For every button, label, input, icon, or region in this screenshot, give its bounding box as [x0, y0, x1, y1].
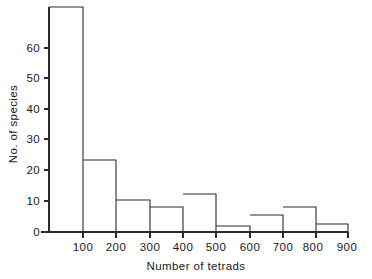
y-tick-label: 50 [26, 72, 40, 84]
y-tick-label: 20 [26, 164, 40, 176]
y-tick-label: 60 [26, 42, 40, 54]
bar-8 [316, 224, 348, 232]
x-tick-label: 500 [206, 241, 226, 253]
y-axis-ticks [44, 48, 49, 201]
bar-3 [150, 207, 183, 232]
bar-1 [83, 160, 116, 232]
x-tick-label: 200 [106, 241, 126, 253]
y-tick-label: 0 [33, 226, 40, 238]
x-tick-label: 400 [173, 241, 193, 253]
x-tick-label: 300 [140, 241, 160, 253]
x-tick-label: 700 [273, 241, 293, 253]
y-tick-label: 10 [26, 195, 40, 207]
bar-4 [183, 194, 216, 232]
y-tick-label: 30 [26, 133, 40, 145]
x-axis-ticks [83, 232, 348, 238]
bars-group [49, 7, 348, 232]
bar-2 [116, 200, 150, 232]
y-axis-tick-labels: 60 50 40 30 20 10 0 [26, 42, 40, 238]
x-tick-label: 600 [240, 241, 260, 253]
y-axis-title: No. of species [7, 85, 19, 163]
y-tick-label: 40 [26, 103, 40, 115]
x-tick-label: 800 [303, 241, 323, 253]
x-tick-label: 100 [73, 241, 93, 253]
x-axis-title: Number of tetrads [147, 260, 246, 272]
x-tick-label: 900 [337, 241, 357, 253]
bar-5 [216, 226, 250, 232]
bar-7 [283, 207, 316, 232]
x-axis-tick-labels: 100 200 300 400 500 600 700 800 900 [73, 241, 357, 253]
figure-container: 60 50 40 30 20 10 0 100 200 300 400 500 [0, 0, 372, 279]
histogram-chart: 60 50 40 30 20 10 0 100 200 300 400 500 [0, 0, 372, 279]
bar-0 [49, 7, 83, 232]
bar-6 [250, 215, 283, 232]
